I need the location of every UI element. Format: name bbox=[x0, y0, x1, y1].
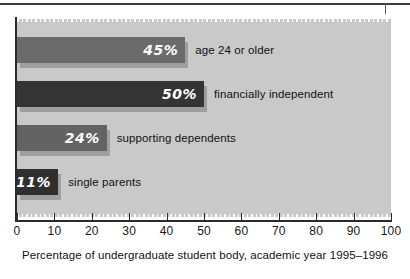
bar-value-label: 24% bbox=[65, 130, 100, 146]
x-axis-tick-label: 50 bbox=[187, 224, 221, 238]
top-rule-divider bbox=[0, 3, 410, 5]
bar-supporting-dependents: 24% bbox=[17, 125, 107, 151]
x-axis-tick-label: 10 bbox=[37, 224, 71, 238]
chart-figure: 45%age 24 or older50%financially indepen… bbox=[0, 0, 410, 279]
x-axis-tick bbox=[129, 213, 130, 221]
bar-category-label: age 24 or older bbox=[195, 44, 274, 57]
x-axis-tick-label: 40 bbox=[150, 224, 184, 238]
x-axis-tick bbox=[241, 213, 242, 221]
x-axis-tick-label: 80 bbox=[299, 224, 333, 238]
bar-financially-independent: 50% bbox=[17, 81, 204, 107]
x-axis-tick-label: 0 bbox=[0, 224, 34, 238]
x-axis-tick bbox=[354, 213, 355, 221]
bar-category-label: supporting dependents bbox=[117, 132, 236, 145]
x-axis-tick-label: 90 bbox=[337, 224, 371, 238]
x-axis-tick bbox=[391, 213, 392, 221]
bar-value-label: 50% bbox=[162, 86, 197, 102]
x-axis-tick bbox=[54, 213, 55, 221]
bar-category-label: single parents bbox=[68, 176, 141, 189]
bar-single-parents: 11% bbox=[17, 169, 58, 195]
bar-value-label: 11% bbox=[16, 174, 51, 190]
top-rule-tick bbox=[385, 3, 386, 14]
x-axis-tick bbox=[316, 213, 317, 221]
x-axis-tick bbox=[17, 213, 18, 221]
x-axis-tick bbox=[167, 213, 168, 221]
x-axis-tick-label: 70 bbox=[262, 224, 296, 238]
bar-value-label: 45% bbox=[143, 42, 178, 58]
bar-age-24-or-older: 45% bbox=[17, 37, 185, 63]
x-axis-tick-label: 30 bbox=[112, 224, 146, 238]
bar-category-label: financially independent bbox=[214, 88, 333, 101]
x-axis-tick-label: 60 bbox=[224, 224, 258, 238]
x-axis-tick bbox=[92, 213, 93, 221]
x-axis-tick bbox=[204, 213, 205, 221]
x-axis-tick-label: 20 bbox=[75, 224, 109, 238]
y-axis-line bbox=[15, 17, 17, 222]
x-axis-tick-label: 100 bbox=[374, 224, 408, 238]
x-axis-tick bbox=[279, 213, 280, 221]
chart-caption: Percentage of undergraduate student body… bbox=[0, 248, 410, 262]
